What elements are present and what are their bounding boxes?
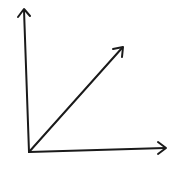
vector-diagram bbox=[0, 0, 180, 171]
horizontal-axis-arrow bbox=[29, 142, 166, 154]
vertical-axis-arrow bbox=[18, 9, 30, 152]
diagonal-vector-arrow bbox=[29, 47, 123, 152]
